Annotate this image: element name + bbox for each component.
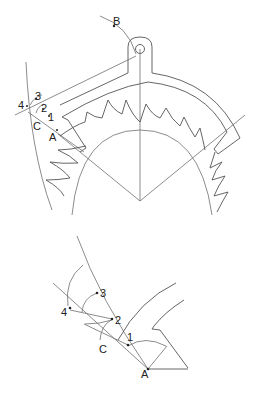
label-3: 3 xyxy=(35,90,41,102)
anchor-outer-arc xyxy=(152,73,240,138)
label-1: 1 xyxy=(48,111,54,123)
detail-point-4 xyxy=(69,307,72,310)
radial-line-right xyxy=(140,115,245,201)
detail-main-arc xyxy=(77,236,148,369)
detail-label-4: 4 xyxy=(61,306,67,318)
left-arm-upper xyxy=(60,73,128,105)
label-A: A xyxy=(49,131,57,143)
detail-point-3 xyxy=(96,292,99,295)
pallet-detail-view: 3 2 4 1 C A xyxy=(53,236,188,380)
detail-label-3: 3 xyxy=(100,287,106,299)
wheel-hub-arc xyxy=(72,130,212,215)
pivot-tangent-line xyxy=(15,56,136,115)
detail-label-C: C xyxy=(99,343,107,355)
escape-wheel-teeth-left xyxy=(46,146,86,196)
detail-label-A: A xyxy=(141,368,149,380)
detail-point-1 xyxy=(127,344,130,347)
label-B: B xyxy=(113,15,120,27)
escape-wheel-teeth-right xyxy=(210,152,228,212)
detail-arc-4 xyxy=(67,265,83,306)
detail-label-2: 2 xyxy=(115,314,121,326)
point-4 xyxy=(26,105,28,107)
detail-arc-3 xyxy=(82,293,97,312)
detail-pallet-diag xyxy=(148,346,167,369)
escape-wheel-teeth-top xyxy=(60,100,205,150)
radial-line-left xyxy=(58,134,140,201)
label-2: 2 xyxy=(41,102,47,114)
full-escapement-view: B 3 4 2 1 C A xyxy=(15,15,245,215)
detail-arc-1 xyxy=(128,341,166,347)
label-C: C xyxy=(33,120,41,132)
label-4: 4 xyxy=(18,99,24,111)
detail-pallet-outline xyxy=(118,283,188,368)
right-pallet xyxy=(214,132,240,154)
detail-point-2 xyxy=(111,318,114,321)
escapement-diagram: B 3 4 2 1 C A 3 2 4 1 C xyxy=(0,0,259,397)
detail-label-1: 1 xyxy=(127,331,133,343)
